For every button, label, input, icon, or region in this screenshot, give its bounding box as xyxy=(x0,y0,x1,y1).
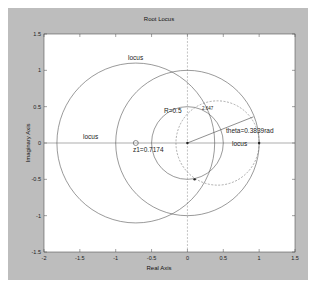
locus-label-top: locus xyxy=(128,54,144,61)
locus-label-left: locus xyxy=(83,133,99,140)
theta-label: theta=0.3839rad xyxy=(226,127,274,134)
svg-text:0: 0 xyxy=(38,140,41,146)
svg-text:-1.5: -1.5 xyxy=(32,249,41,255)
svg-text:0.5: 0.5 xyxy=(33,104,41,110)
svg-text:-0.5: -0.5 xyxy=(32,176,41,182)
svg-text:-1.5: -1.5 xyxy=(75,255,84,261)
gain-label: 2.647 xyxy=(202,106,214,111)
svg-text:1.5: 1.5 xyxy=(291,255,299,261)
svg-text:-0.5: -0.5 xyxy=(147,255,156,261)
svg-text:1.5: 1.5 xyxy=(33,31,41,37)
svg-text:1: 1 xyxy=(38,67,41,73)
svg-text:0: 0 xyxy=(186,255,189,261)
svg-text:1: 1 xyxy=(258,255,261,261)
r-label: R=0.5 xyxy=(164,107,182,114)
svg-text:-2: -2 xyxy=(42,255,47,261)
svg-text:-1: -1 xyxy=(36,213,41,219)
root-locus-plot: -2-1.5-1-0.500.511.51.510.50-0.5-1-1.5 l… xyxy=(0,0,318,290)
svg-text:0.5: 0.5 xyxy=(219,255,227,261)
locus-label-right: locus xyxy=(232,140,248,147)
z1-label: z1=0.7174 xyxy=(133,146,164,153)
svg-text:-1: -1 xyxy=(113,255,118,261)
